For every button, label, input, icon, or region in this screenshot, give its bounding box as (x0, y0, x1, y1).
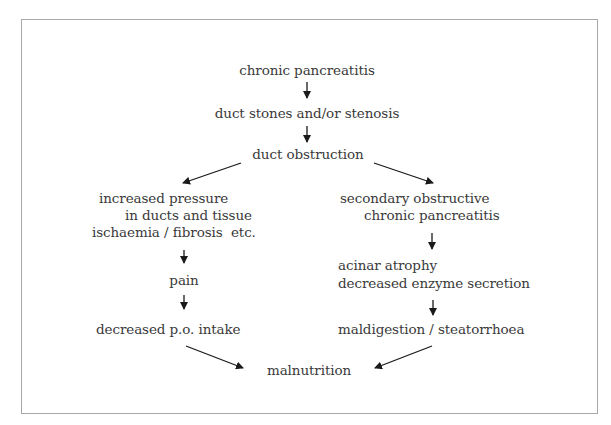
arrow-intake-to-malnutrition (186, 346, 243, 368)
node-maldigestion: maldigestion / steatorrhoea (338, 320, 524, 338)
node-acinar-line2: decreased enzyme secretion (338, 274, 530, 292)
arrow-obstruction-to-secondary (374, 163, 433, 183)
node-malnutrition: malnutrition (267, 361, 351, 379)
arrow-maldigestion-to-malnutrition (375, 346, 432, 368)
node-increased-pressure-line2: in ducts and tissue (125, 206, 252, 224)
node-secondary-line2: chronic pancreatitis (364, 206, 500, 224)
node-duct-stones: duct stones and/or stenosis (215, 104, 399, 122)
node-pain: pain (169, 271, 198, 289)
node-secondary-line1: secondary obstructive (340, 189, 489, 207)
node-chronic-pancreatitis: chronic pancreatitis (239, 61, 375, 79)
node-increased-pressure-line3: ischaemia / fibrosis etc. (92, 223, 256, 241)
node-duct-obstruction: duct obstruction (252, 145, 363, 163)
node-increased-pressure-line1: increased pressure (99, 189, 228, 207)
node-acinar-line1: acinar atrophy (338, 256, 437, 274)
arrow-obstruction-to-pressure (183, 163, 241, 183)
node-decreased-intake: decreased p.o. intake (96, 320, 241, 338)
